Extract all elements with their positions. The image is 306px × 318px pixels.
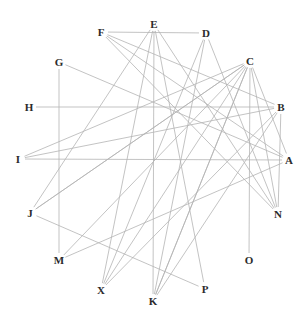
vertex-label-g: G: [55, 57, 64, 68]
graph-edge: [158, 30, 274, 208]
graph-edges-canvas: [0, 0, 306, 318]
graph-edge: [157, 113, 277, 295]
graph-edge: [156, 67, 248, 294]
graph-edge: [154, 40, 204, 294]
vertex-label-k: K: [149, 296, 158, 307]
graph-edge: [108, 32, 199, 33]
vertex-label-j: J: [27, 208, 33, 219]
graph-edge: [64, 66, 245, 255]
vertex-label-e: E: [150, 19, 157, 30]
graph-edge: [249, 68, 250, 253]
graph-edge: [34, 30, 150, 207]
vertex-label-p: P: [202, 284, 209, 295]
graph-edge: [25, 159, 282, 160]
vertex-label-f: F: [98, 27, 105, 38]
vertex-label-m: M: [54, 255, 64, 266]
graph-edge: [65, 163, 282, 257]
vertex-label-n: N: [274, 209, 282, 220]
vertex-label-a: A: [285, 155, 293, 166]
vertex-label-c: C: [246, 56, 254, 67]
vertex-label-i: I: [16, 154, 20, 165]
graph-edge: [36, 216, 198, 286]
vertex-label-o: O: [245, 255, 254, 266]
graph-edge: [105, 67, 246, 284]
graph-edge: [24, 64, 243, 157]
vertex-label-b: B: [277, 102, 284, 113]
graph-edge: [36, 65, 244, 209]
graph-edge: [251, 68, 276, 207]
graph-diagram: ABCDEFGHIJMXKPON: [0, 0, 306, 318]
vertex-label-x: X: [97, 285, 105, 296]
vertex-label-d: D: [202, 28, 210, 39]
graph-edge: [155, 31, 203, 282]
graph-edge: [278, 114, 281, 207]
vertex-label-h: H: [25, 102, 34, 113]
